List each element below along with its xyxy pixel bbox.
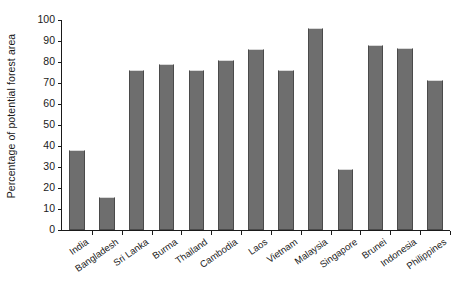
bar xyxy=(278,70,294,230)
bar xyxy=(159,64,175,230)
x-axis-tick-mark xyxy=(122,231,123,235)
bar xyxy=(427,80,443,230)
y-axis-tick-label: 30 xyxy=(43,160,55,172)
y-axis-tick-label: 20 xyxy=(43,181,55,193)
x-axis-line xyxy=(61,230,450,231)
y-axis-tick-label: 40 xyxy=(43,139,55,151)
bar xyxy=(218,60,234,230)
x-axis-tick-mark xyxy=(331,231,332,235)
bar xyxy=(189,70,205,230)
y-axis-tick-label: 70 xyxy=(43,76,55,88)
y-axis-title: Percentage of potential forest area xyxy=(0,0,22,232)
x-axis-tick-mark xyxy=(390,231,391,235)
bar xyxy=(248,49,264,230)
x-axis-tick-mark xyxy=(92,231,93,235)
x-axis-tick-mark xyxy=(301,231,302,235)
y-axis-title-text: Percentage of potential forest area xyxy=(5,34,17,199)
bar xyxy=(99,197,115,230)
x-axis-tick-mark xyxy=(420,231,421,235)
x-axis-tick-mark xyxy=(450,231,451,235)
y-axis-tick-label: 80 xyxy=(43,55,55,67)
x-axis-tick-mark xyxy=(181,231,182,235)
y-axis-tick-label: 0 xyxy=(49,223,55,235)
x-axis-tick-mark xyxy=(211,231,212,235)
bar xyxy=(368,45,384,230)
bar xyxy=(129,70,145,230)
x-axis-tick-mark xyxy=(360,231,361,235)
bar xyxy=(308,28,324,230)
x-axis-tick-mark xyxy=(271,231,272,235)
x-axis-tick-mark xyxy=(152,231,153,235)
y-axis-tick-label: 10 xyxy=(43,202,55,214)
bar xyxy=(69,150,85,230)
bar xyxy=(397,48,413,230)
y-axis-tick-label: 60 xyxy=(43,97,55,109)
y-axis-tick-label: 50 xyxy=(43,118,55,130)
plot-area xyxy=(62,20,450,230)
y-axis-tick-label: 90 xyxy=(43,34,55,46)
x-axis-tick-mark xyxy=(241,231,242,235)
y-axis-tick-label: 100 xyxy=(37,13,55,25)
bar-chart: Percentage of potential forest area 0102… xyxy=(0,0,461,288)
bar xyxy=(338,169,354,230)
